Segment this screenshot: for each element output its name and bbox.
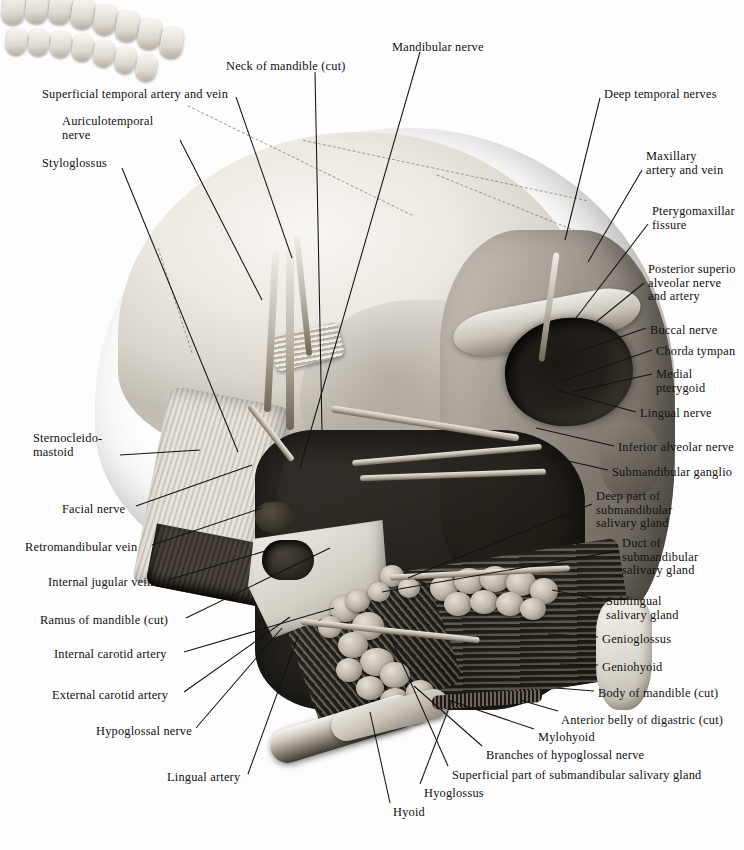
label-neck-of-mandible-cut: Neck of mandible (cut) <box>226 60 346 74</box>
label-buccal-nerve: Buccal nerve <box>650 324 717 338</box>
label-internal-carotid-artery: Internal carotid artery <box>54 648 167 662</box>
label-styloglossus: Styloglossus <box>42 157 107 171</box>
label-submandibular-ganglion: Submandibular ganglio <box>612 466 732 480</box>
label-ramus-of-mandible-cut: Ramus of mandible (cut) <box>40 614 168 628</box>
label-mylohyoid: Mylohyoid <box>538 731 595 745</box>
label-auriculotemporal-nerve: Auriculotemporal nerve <box>62 115 153 142</box>
label-deep-temporal-nerves: Deep temporal nerves <box>604 88 717 102</box>
label-anterior-belly-of-digastric-cut: Anterior belly of digastric (cut) <box>561 714 723 728</box>
label-branches-of-hypoglossal-nerve: Branches of hypoglossal nerve <box>486 749 644 763</box>
label-posterior-superior-alveolar-nerve-and-artery: Posterior superio alveolar nerve and art… <box>648 263 736 304</box>
label-genioglossus: Genioglossus <box>602 633 671 647</box>
label-geniohyoid: Geniohyoid <box>602 661 663 675</box>
label-medial-pterygoid: Medial pterygoid <box>656 368 705 395</box>
label-chorda-tympani: Chorda tympan <box>656 345 735 359</box>
label-facial-nerve: Facial nerve <box>62 503 125 517</box>
label-external-carotid-artery: External carotid artery <box>52 689 168 703</box>
label-mandibular-nerve: Mandibular nerve <box>392 41 484 55</box>
label-lingual-artery: Lingual artery <box>167 771 240 785</box>
label-body-of-mandible-cut: Body of mandible (cut) <box>598 687 718 701</box>
label-hyoid: Hyoid <box>393 806 425 820</box>
label-hyoglossus: Hyoglossus <box>424 787 484 801</box>
label-pterygomaxillary-fissure: Pterygomaxillar fissure <box>652 205 735 232</box>
label-lingual-nerve: Lingual nerve <box>640 407 712 421</box>
label-deep-part-of-submandibular-salivary-gland: Deep part of submandibular salivary glan… <box>596 490 672 531</box>
label-superficial-part-of-submandibular-salivary-gland: Superficial part of submandibular saliva… <box>452 769 701 783</box>
label-inferior-alveolar-nerve: Inferior alveolar nerve <box>618 441 734 455</box>
label-maxillary-artery-and-vein: Maxillary artery and vein <box>646 150 723 177</box>
anatomical-plate: Superficial temporal artery and veinAuri… <box>0 0 744 850</box>
label-internal-jugular-vein: Internal jugular vein <box>48 576 153 590</box>
label-duct-of-submandibular-salivary-gland: Duct of submandibular salivary gland <box>622 537 698 578</box>
label-sternocleidomastoid: Sternocleido- mastoid <box>33 432 102 459</box>
label-retromandibular-vein: Retromandibular vein <box>25 541 137 555</box>
label-hypoglossal-nerve: Hypoglossal nerve <box>96 725 192 739</box>
label-superficial-temporal-artery-and-vein: Superficial temporal artery and vein <box>42 88 228 102</box>
mandibular-nerve-cord <box>286 250 294 430</box>
internal-jugular-vein-stump <box>262 540 314 580</box>
upper-and-lower-teeth <box>0 0 214 85</box>
label-sublingual-salivary-gland: Sublingual salivary gland <box>606 595 679 622</box>
retromandibular-vein-stump <box>255 502 293 532</box>
